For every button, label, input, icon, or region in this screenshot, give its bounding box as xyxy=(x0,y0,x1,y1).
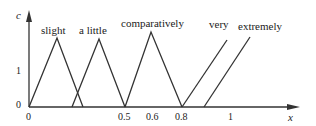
x-axis: 0 0.5 0.6 0.8 1 x xyxy=(26,104,300,123)
x-tick-0-6: 0.6 xyxy=(146,111,159,122)
y-axis-arrow-icon xyxy=(26,10,32,22)
set-extremely-curve xyxy=(204,37,250,107)
y-tick-0: 0 xyxy=(16,99,21,110)
x-tick-0-8: 0.8 xyxy=(175,111,188,122)
x-axis-label: x xyxy=(287,111,293,123)
x-axis-arrow-icon xyxy=(287,104,300,110)
x-tick-0-5: 0.5 xyxy=(118,111,131,122)
set-label-extremely: extremely xyxy=(238,20,282,32)
set-comparatively-curve xyxy=(125,32,182,107)
set-label-comparatively: comparatively xyxy=(121,17,184,29)
set-label-very: very xyxy=(209,18,229,30)
x-tick-0: 0 xyxy=(26,111,31,122)
set-very-curve xyxy=(182,40,227,107)
y-axis-label: c xyxy=(16,9,21,21)
y-axis: c 1 0 xyxy=(16,9,32,110)
x-tick-1: 1 xyxy=(228,111,233,122)
set-slight-curve xyxy=(29,38,83,107)
y-tick-1: 1 xyxy=(16,65,21,76)
membership-function-diagram: c 1 0 0 0.5 0.6 0.8 1 x slight a little … xyxy=(0,0,316,126)
set-label-slight: slight xyxy=(41,24,65,36)
set-a-little-curve xyxy=(72,39,125,107)
set-label-a-little: a little xyxy=(79,24,107,36)
